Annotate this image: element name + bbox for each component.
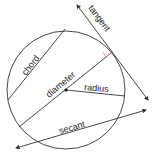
circle-parts-diagram: chord diameter radius tangent secant xyxy=(0,0,152,162)
right-angle-marker xyxy=(103,52,111,57)
center-point xyxy=(64,88,67,91)
chord-label: chord xyxy=(20,53,42,77)
tangent-label: tangent xyxy=(86,3,112,33)
secant-label: secant xyxy=(58,119,87,136)
